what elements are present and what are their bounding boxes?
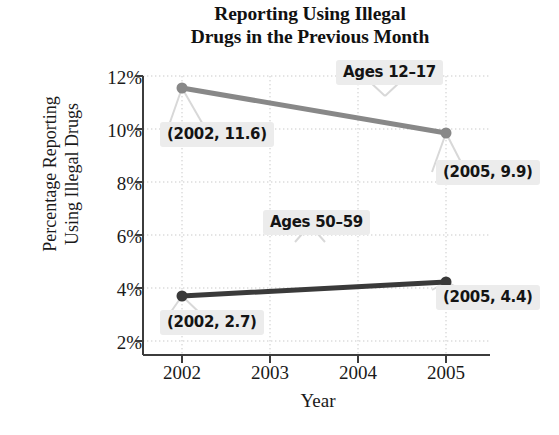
- series-line-ages-50-59: [177, 277, 452, 302]
- annotation-point-2002-11-6: (2002, 11.6): [160, 122, 274, 147]
- chart-figure: Reporting Using Illegal Drugs in the Pre…: [0, 0, 559, 435]
- data-point-marker: [177, 291, 188, 302]
- annotation-point-2005-4-4: (2005, 4.4): [436, 285, 540, 310]
- annotation-point-2005-9-9: (2005, 9.9): [436, 160, 540, 185]
- annotation-ages-12-17: Ages 12–17: [336, 60, 443, 85]
- y-axis-ticks: [135, 76, 143, 341]
- annotation-point-2002-2-7: (2002, 2.7): [160, 310, 264, 335]
- x-axis-ticks: [182, 355, 446, 363]
- annotation-ages-50-59: Ages 50–59: [263, 210, 370, 235]
- data-point-marker: [177, 83, 188, 94]
- data-point-marker: [441, 128, 452, 139]
